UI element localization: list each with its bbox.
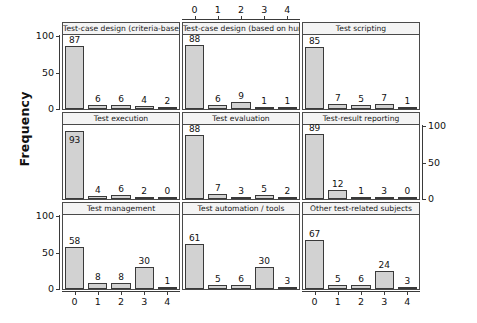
plot-area: 5888301 (62, 215, 180, 290)
x-tick-label: 1 (332, 296, 344, 307)
x-tick-mark (98, 291, 99, 295)
panel-title: Test-case design (criteria-base (62, 22, 180, 35)
x-tick-mark (264, 16, 265, 20)
y-tick-mark (56, 73, 60, 74)
bar (231, 285, 250, 289)
bar-value-label: 88 (178, 34, 211, 44)
y-tick-label: 50 (42, 67, 54, 78)
y-tick: 100 (422, 126, 452, 127)
x-tick-mark (167, 291, 168, 295)
bar (135, 106, 154, 109)
bar-series: 5888301 (63, 215, 179, 289)
panel-title: Other test-related subjects (302, 202, 420, 215)
plot-area: 857571 (302, 35, 420, 110)
x-tick-mark (195, 16, 196, 20)
bar-value-label: 3 (271, 276, 304, 286)
bar-value-label: 1 (151, 276, 184, 286)
x-tick-mark (361, 291, 362, 295)
panel-title: Test management (62, 202, 180, 215)
y-tick-mark (422, 126, 426, 127)
bar (398, 287, 417, 289)
y-tick-mark (56, 36, 60, 37)
y-tick-mark (422, 199, 426, 200)
y-tick: 50 (30, 253, 60, 254)
bar (88, 105, 107, 109)
bar-value-label: 87 (58, 35, 91, 45)
bar-value-label: 6 (344, 274, 377, 284)
y-tick-label: 50 (428, 157, 440, 168)
x-tick-mark (407, 291, 408, 295)
bar-value-label: 93 (58, 135, 91, 145)
x-tick-mark (218, 16, 219, 20)
x-tick-mark (384, 291, 385, 295)
bar (135, 197, 154, 199)
panel-test-execution: Test execution934620 (62, 112, 180, 200)
bar-series: 886911 (183, 35, 299, 109)
bar (158, 287, 177, 289)
x-tick-mark (338, 291, 339, 295)
bar (398, 197, 417, 199)
x-tick-label: 3 (378, 296, 390, 307)
x-tick-mark (144, 291, 145, 295)
plot-area: 6156303 (182, 215, 300, 290)
bar-series: 6156303 (183, 215, 299, 289)
x-tick-mark (315, 291, 316, 295)
y-tick-label: 0 (48, 283, 54, 294)
y-tick: 100 (30, 36, 60, 37)
bar (278, 287, 297, 289)
bar (305, 134, 324, 199)
bar-value-label: 61 (178, 233, 211, 243)
x-tick-mark (121, 291, 122, 295)
y-axis-left: 050100 (30, 35, 60, 110)
y-tick: 50 (30, 73, 60, 74)
bar-value-label: 58 (58, 236, 91, 246)
bar-value-label: 1 (391, 96, 424, 106)
plot-area: 876642 (62, 35, 180, 110)
x-tick-label: 4 (401, 296, 413, 307)
panel-test-case-design-criteria-base: Test-case design (criteria-base876642 (62, 22, 180, 110)
panel-test-automation-tools: Test automation / tools6156303 (182, 202, 300, 290)
panel-title: Test execution (62, 112, 180, 125)
bar (351, 197, 370, 199)
bar (158, 107, 177, 109)
bar-series: 6756243 (303, 215, 419, 289)
y-tick-label: 100 (428, 120, 446, 131)
y-axis-right: 050100 (422, 125, 452, 200)
y-tick-label: 100 (36, 30, 54, 41)
bar-value-label: 8 (104, 272, 137, 282)
y-tick-mark (422, 163, 426, 164)
x-tick-label: 2 (355, 296, 367, 307)
bar-value-label: 2 (271, 186, 304, 196)
y-tick-label: 0 (428, 193, 434, 204)
y-tick-mark (56, 216, 60, 217)
bar-value-label: 30 (248, 256, 281, 266)
bar (328, 285, 347, 289)
x-tick-label: 4 (161, 296, 173, 307)
trellis-histogram-chart: Frequency Test-case design (criteria-bas… (0, 0, 477, 323)
bar-value-label: 24 (368, 260, 401, 270)
bar-value-label: 85 (298, 36, 331, 46)
bar (111, 105, 130, 109)
bar (111, 283, 130, 289)
plot-area: 887352 (182, 125, 300, 200)
panel-test-case-design-based-on-huma: Test-case design (based on huma886911 (182, 22, 300, 110)
panel-test-management: Test management5888301 (62, 202, 180, 290)
panel-title: Test scripting (302, 22, 420, 35)
bar-series: 876642 (63, 35, 179, 109)
y-tick-label: 50 (42, 247, 54, 258)
plot-area: 6756243 (302, 215, 420, 290)
x-tick-label: 3 (138, 296, 150, 307)
bar-value-label: 67 (298, 229, 331, 239)
x-tick-mark (287, 16, 288, 20)
bar-value-label: 89 (298, 123, 331, 133)
plot-area: 8912130 (302, 125, 420, 200)
bar (231, 197, 250, 199)
bar-value-label: 30 (128, 256, 161, 266)
bar (398, 107, 417, 109)
bar (375, 197, 394, 199)
x-tick-label: 0 (69, 296, 81, 307)
panel-grid: Test-case design (criteria-base876642Tes… (62, 22, 420, 294)
panel-test-scripting: Test scripting857571 (302, 22, 420, 110)
panel-test-evaluation: Test evaluation887352 (182, 112, 300, 200)
bar-value-label: 3 (391, 276, 424, 286)
